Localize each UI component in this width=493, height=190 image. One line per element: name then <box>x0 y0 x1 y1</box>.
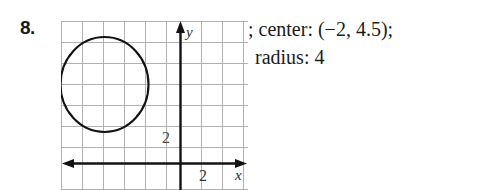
problem-number: 8. <box>20 17 35 39</box>
answer-radius-line: radius: 4 <box>248 43 490 71</box>
coordinate-graph-figure: y x 2 2 <box>61 21 248 190</box>
y-axis-label: y <box>184 24 193 40</box>
answer-text-block: ; center: (−2, 4.5); radius: 4 <box>248 15 490 72</box>
x-axis <box>62 159 247 168</box>
answer-center-line: ; center: (−2, 4.5); <box>248 15 490 43</box>
y-axis-tick-label-2: 2 <box>162 129 170 146</box>
x-axis-label: x <box>234 167 242 183</box>
y-axis-top-arrowhead <box>176 21 185 33</box>
x-axis-tick-label-2: 2 <box>199 167 207 184</box>
coordinate-plane-svg: y x 2 2 <box>61 21 248 190</box>
x-axis-left-arrowhead <box>62 159 74 168</box>
worksheet-problem-figure: 8. <box>0 0 493 190</box>
